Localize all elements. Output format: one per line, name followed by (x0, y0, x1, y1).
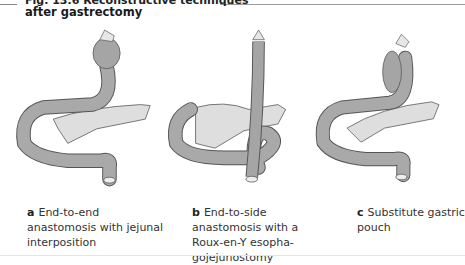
title-rule-left (0, 4, 17, 5)
caption-c-letter: c (357, 206, 364, 219)
caption-a: aEnd-to-end anastomosis with jejunal int… (27, 205, 167, 250)
bottom-rule (0, 255, 465, 256)
illustration-a-jejunal-interposition (0, 22, 155, 192)
caption-a-letter: a (27, 206, 34, 219)
caption-a-text: End-to-end anastomosis with jejunal inte… (27, 206, 163, 249)
figure-title-line2: after gastrectomy (25, 5, 142, 19)
caption-b-letter: b (192, 206, 200, 219)
caption-c: cSubstitute gastric pouch (357, 205, 465, 235)
title-rule-right (220, 4, 465, 5)
illustration-b-roux-en-y (152, 22, 307, 192)
caption-b: bEnd-to-side anastomosis with a Roux-en-… (192, 205, 327, 265)
illustration-c-gastric-pouch (300, 22, 455, 192)
caption-c-text: Substitute gastric pouch (357, 206, 465, 234)
